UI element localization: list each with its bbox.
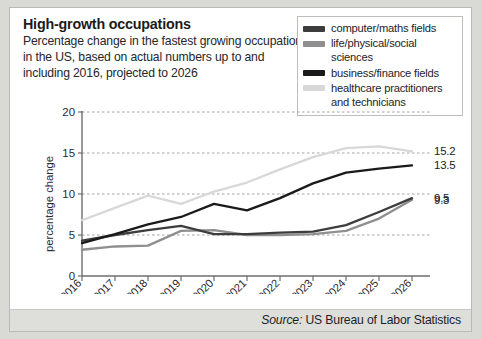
x-axis-tick-label: 2017 [91, 277, 117, 294]
legend-swatch-icon [303, 85, 325, 91]
x-axis-tick-label: 2021 [223, 277, 249, 294]
legend-item-label: computer/maths fields [331, 21, 436, 35]
series-line [82, 198, 412, 241]
source-text: Source: US Bureau of Labor Statistics [261, 313, 461, 327]
series-end-value-label: 9.3 [434, 194, 449, 206]
series-line [82, 200, 412, 250]
x-axis-tick-label: 2018 [124, 277, 150, 294]
legend-item-label: life/physical/social sciences [331, 36, 457, 64]
y-axis-tick-label: 10 [62, 188, 75, 200]
legend-item: life/physical/social sciences [303, 36, 457, 64]
source-value: US Bureau of Labor Statistics [305, 313, 461, 327]
x-axis-tick-label: 2025 [355, 277, 381, 294]
chart-subtitle: Percentage change in the fastest growing… [23, 34, 313, 82]
x-axis-tick-label: 2020 [190, 277, 216, 294]
legend-swatch-icon [303, 70, 325, 76]
chart-card: High-growth occupations Percentage chang… [9, 7, 472, 332]
legend-swatch-icon [303, 41, 325, 47]
y-axis-tick-label: 5 [69, 229, 75, 241]
x-axis-tick-label: 2019 [157, 277, 183, 294]
x-axis-tick-label: 2026 [388, 277, 414, 294]
x-axis-tick-label: 2023 [289, 277, 315, 294]
legend-item-label: business/finance fields [331, 66, 439, 80]
series-end-value-label: 15.2 [434, 145, 455, 157]
y-axis-tick-label: 15 [62, 147, 75, 159]
line-chart: 0510152020162017201820192020202120222023… [10, 94, 473, 294]
series-line [82, 146, 412, 220]
page-title: High-growth occupations [23, 16, 313, 32]
chart-header: High-growth occupations Percentage chang… [23, 16, 313, 82]
source-bar: Source: US Bureau of Labor Statistics [10, 309, 471, 331]
x-axis-tick-label: 2024 [322, 277, 348, 294]
legend-swatch-icon [303, 26, 325, 32]
plot-area: percentage change 0510152020162017201820… [10, 94, 473, 294]
series-end-value-label: 13.5 [434, 159, 455, 171]
x-axis-tick-label: 2022 [256, 277, 282, 294]
legend-item: business/finance fields [303, 66, 457, 80]
legend-item: computer/maths fields [303, 21, 457, 35]
y-axis-tick-label: 20 [62, 106, 75, 118]
source-prefix: Source: [261, 313, 302, 327]
